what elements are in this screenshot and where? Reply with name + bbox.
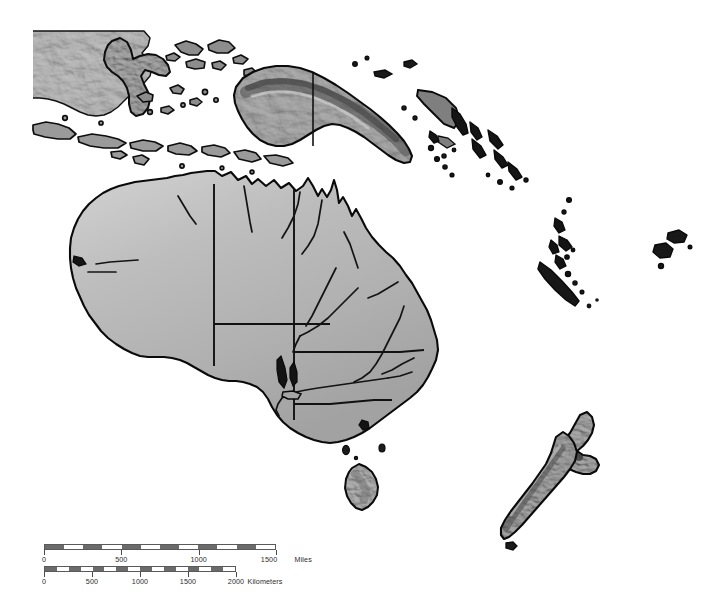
scale-unit-miles: Miles: [295, 555, 312, 564]
scale-label-miles-1000: 1000: [190, 555, 206, 564]
scale-label-miles-0: 0: [42, 555, 46, 564]
scale-bar-kilometers: 0 500 1000 1500 2000 Kilometers: [44, 566, 236, 588]
scale-label-miles-500: 500: [115, 555, 127, 564]
map-page: 0 500 1000 1500 Miles: [0, 0, 719, 613]
shaded-relief-map[interactable]: [0, 0, 719, 613]
map-canvas[interactable]: [0, 0, 719, 613]
scale-label-km-2000: 2000: [228, 577, 244, 586]
scale-label-km-500: 500: [86, 577, 98, 586]
scale-label-km-0: 0: [42, 577, 46, 586]
scale-label-miles-1500: 1500: [261, 555, 277, 564]
kangaroo-island: [282, 391, 301, 399]
scale-unit-kilometers: Kilometers: [248, 577, 283, 586]
scale-bar-group: 0 500 1000 1500 Miles: [44, 544, 344, 590]
scale-bar-miles: 0 500 1000 1500 Miles: [44, 544, 276, 566]
scale-label-km-1000: 1000: [132, 577, 148, 586]
scale-bar-miles-labels: 0 500 1000 1500 Miles: [44, 555, 276, 566]
scale-label-km-1500: 1500: [180, 577, 196, 586]
scale-bar-kilometers-labels: 0 500 1000 1500 2000 Kilometers: [44, 577, 236, 588]
